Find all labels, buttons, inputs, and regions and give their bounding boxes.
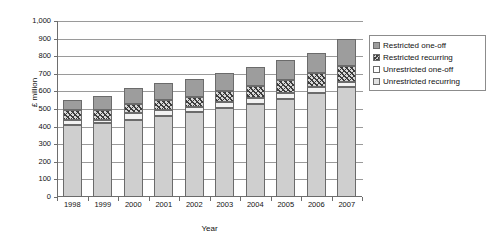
bar-group	[124, 21, 143, 197]
bar-segment	[246, 67, 265, 86]
bar-segment	[337, 39, 356, 66]
x-axis-tick	[57, 197, 58, 201]
bar-segment	[276, 80, 295, 93]
legend-item-label: Restricted one-off	[383, 41, 446, 50]
bar-segment	[185, 97, 204, 108]
unrestricted-recurring-swatch	[373, 78, 380, 85]
bar-segment	[215, 73, 234, 91]
x-axis-tick-label: 2003	[210, 200, 240, 209]
bar-segment	[93, 120, 112, 124]
bar-group	[246, 21, 265, 197]
legend-item-label: Unrestricted one-off	[383, 65, 453, 74]
bar-group	[337, 21, 356, 197]
chart-legend: Restricted one-offRestricted recurringUn…	[369, 35, 486, 91]
bar-segment	[276, 93, 295, 100]
bar-segment	[246, 98, 265, 104]
bar-segment	[124, 104, 143, 114]
bar-segment	[276, 60, 295, 80]
restricted-recurring-swatch	[373, 54, 380, 61]
y-axis-tick-label: 0	[0, 193, 51, 201]
bar-segment	[246, 86, 265, 98]
bar-group	[307, 21, 326, 197]
bar-segment	[215, 102, 234, 107]
bar-segment	[124, 113, 143, 119]
unrestricted-oneoff-swatch	[373, 66, 380, 73]
bar-segment	[307, 93, 326, 197]
x-axis-tick-label: 2001	[149, 200, 179, 209]
y-axis-title: £ million	[30, 53, 39, 133]
y-axis-tick-label: 900	[0, 35, 51, 43]
bar-segment	[337, 82, 356, 87]
bar-group	[154, 21, 173, 197]
bar-group	[63, 21, 82, 197]
y-axis-tick-label: 300	[0, 140, 51, 148]
bar-group	[215, 21, 234, 197]
bar-segment	[154, 116, 173, 197]
bar-segment	[93, 123, 112, 197]
x-axis-tick-label: 2000	[118, 200, 148, 209]
x-axis-tick-label: 2006	[301, 200, 331, 209]
bar-segment	[124, 88, 143, 104]
x-axis-tick-label: 2007	[332, 200, 362, 209]
restricted-oneoff-swatch	[373, 42, 380, 49]
x-axis-tick	[362, 197, 363, 201]
bar-segment	[307, 87, 326, 93]
bar-segment	[185, 112, 204, 197]
y-axis-tick-label: 100	[0, 175, 51, 183]
stacked-bar-chart: 01002003004005006007008009001,000 £ mill…	[0, 0, 499, 244]
bar-segment	[154, 110, 173, 116]
bar-segment	[93, 110, 112, 120]
legend-item: Restricted recurring	[373, 51, 482, 63]
x-axis-tick-label: 2004	[240, 200, 270, 209]
bar-segment	[63, 120, 82, 125]
bar-segment	[276, 99, 295, 197]
bar-group	[276, 21, 295, 197]
bar-segment	[63, 125, 82, 197]
bar-segment	[124, 120, 143, 197]
y-axis-tick-label: 800	[0, 52, 51, 60]
y-axis-tick-label: 600	[0, 87, 51, 95]
x-axis-tick-label: 1999	[88, 200, 118, 209]
bar-group	[185, 21, 204, 197]
legend-item-label: Restricted recurring	[383, 53, 453, 62]
bar-segment	[185, 107, 204, 112]
y-axis-tick-label: 500	[0, 105, 51, 113]
x-axis-title: Year	[57, 224, 362, 233]
legend-item: Restricted one-off	[373, 39, 482, 51]
y-axis-tick-label: 1,000	[0, 17, 51, 25]
legend-item: Unrestricted recurring	[373, 75, 482, 87]
y-axis-tick-label: 400	[0, 123, 51, 131]
bar-segment	[246, 104, 265, 197]
y-axis-tick-label: 700	[0, 70, 51, 78]
bar-segment	[154, 83, 173, 101]
legend-item-label: Unrestricted recurring	[383, 77, 460, 86]
bar-segment	[63, 110, 82, 120]
bar-segment	[215, 108, 234, 197]
bar-segment	[307, 73, 326, 87]
y-axis-tick-label: 200	[0, 158, 51, 166]
bar-segment	[337, 87, 356, 197]
legend-item: Unrestricted one-off	[373, 63, 482, 75]
bar-segment	[63, 100, 82, 110]
bar-segment	[307, 53, 326, 73]
bar-segment	[337, 66, 356, 82]
y-axis-labels: 01002003004005006007008009001,000	[0, 0, 53, 244]
bar-segment	[215, 91, 234, 102]
bars-layer	[57, 21, 362, 197]
x-axis-tick-label: 2005	[271, 200, 301, 209]
x-axis-tick-label: 1998	[57, 200, 87, 209]
bar-segment	[154, 100, 173, 110]
x-axis-tick-label: 2002	[179, 200, 209, 209]
bar-segment	[185, 79, 204, 97]
bar-group	[93, 21, 112, 197]
bar-segment	[93, 96, 112, 110]
